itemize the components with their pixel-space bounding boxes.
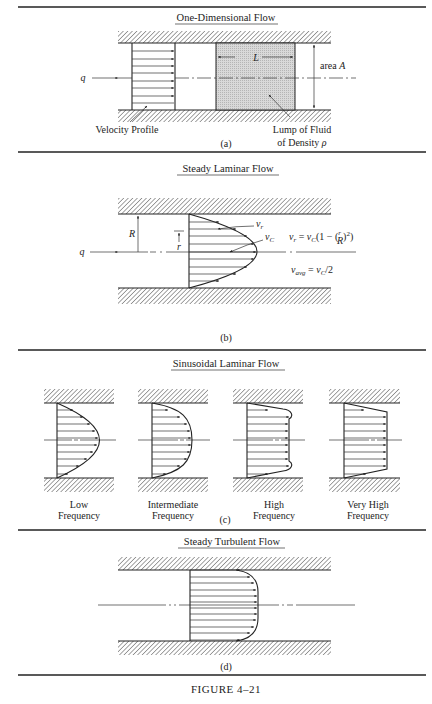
panel-a-one-dimensional-flow: One-Dimensional Flow q L (18, 7, 426, 152)
panel-a-tag: (a) (220, 138, 231, 150)
equation-average-velocity: vavg = vC/2 (291, 264, 333, 277)
profile-very-high-frequency (329, 389, 402, 492)
area-A-label: area A (320, 60, 346, 71)
q-symbol: q (80, 246, 85, 257)
r-label: r (177, 241, 181, 252)
label-high: High (264, 499, 284, 510)
lump-label-line2: of Density ρ (277, 137, 326, 148)
label-low: Low (70, 499, 89, 510)
vc-pointer (230, 240, 263, 252)
lump-label-line1: Lump of Fluid (273, 124, 331, 135)
equation-velocity-profile: vr = vC(1 − (rR)2) (289, 229, 353, 246)
label-high-frequency: Frequency (253, 510, 295, 521)
radius-R-label: R (128, 228, 135, 239)
figure-caption: FIGURE 4–21 (191, 683, 261, 695)
pipe-wall-bottom (118, 288, 331, 304)
uniform-velocity-profile (132, 43, 175, 110)
label-low-frequency: Frequency (58, 510, 100, 521)
panel-b-title: Steady Laminar Flow (183, 163, 274, 174)
panel-b-steady-laminar-flow: Steady Laminar Flow q R r (18, 163, 426, 350)
pipe-wall-top (118, 198, 331, 214)
panel-b-tag: (b) (220, 332, 232, 344)
q-symbol: q (81, 72, 86, 83)
velocity-profile-label: Velocity Profile (95, 124, 159, 135)
length-L-label: L (252, 52, 259, 63)
panel-d-tag: (d) (220, 661, 232, 673)
pipe-wall-bottom (118, 641, 331, 655)
vr-label: vr (256, 218, 263, 231)
panel-c-tag: (c) (219, 514, 230, 526)
vc-label: vC (265, 231, 274, 244)
figure-4-21-diagram: One-Dimensional Flow q L (0, 0, 432, 704)
parabolic-velocity-profile (189, 214, 257, 288)
profile-low-frequency (44, 389, 116, 492)
panel-d-steady-turbulent-flow: Steady Turbulent Flow (d) (18, 536, 426, 675)
vr-pointer (218, 226, 254, 229)
panel-c-sinusoidal-laminar-flow: Sinusoidal Laminar Flow (18, 358, 426, 530)
panel-c-title: Sinusoidal Laminar Flow (173, 358, 280, 369)
label-very-high-frequency: Frequency (347, 510, 389, 521)
panel-a-title: One-Dimensional Flow (177, 12, 276, 23)
panel-d-title: Steady Turbulent Flow (184, 536, 281, 547)
pipe-wall-bottom (118, 110, 331, 122)
profile-intermediate-frequency (138, 389, 210, 492)
pipe-wall-top (118, 557, 331, 570)
label-intermediate: Intermediate (148, 499, 199, 510)
label-very-high: Very High (347, 499, 388, 510)
pipe-wall-top (118, 31, 331, 43)
turbulent-velocity-profile (190, 570, 258, 641)
profile-high-frequency (233, 389, 305, 492)
label-intermediate-frequency: Frequency (152, 510, 194, 521)
